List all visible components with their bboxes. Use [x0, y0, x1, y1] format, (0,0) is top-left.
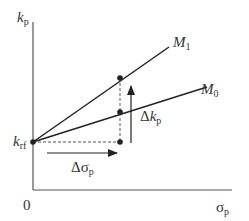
m1-label: M1	[173, 35, 191, 52]
delta-sigma-label: Δσp	[71, 160, 94, 177]
intercept-label: krf	[13, 134, 26, 151]
x-axis-label: σp	[216, 200, 229, 217]
x-axis-symbol: σ	[216, 199, 224, 215]
origin-label: 0	[23, 198, 31, 213]
intercept-subscript: rf	[20, 140, 27, 151]
diagram-canvas	[0, 0, 249, 221]
delta-k-prefix: Δ	[140, 108, 150, 124]
delta-sigma-prefix: Δ	[71, 159, 81, 175]
delta-k-label: Δkp	[140, 109, 161, 126]
line-m1	[33, 47, 169, 142]
delta-k-subscript: p	[156, 115, 161, 126]
y-axis-subscript: p	[24, 16, 29, 27]
x-axis-subscript: p	[224, 206, 229, 217]
point-base	[117, 139, 123, 145]
delta-sigma-symbol: σ	[81, 159, 89, 175]
m1-symbol: M	[173, 34, 186, 50]
m1-subscript: 1	[186, 41, 191, 52]
m0-symbol: M	[201, 81, 214, 97]
point-on-m1	[117, 75, 123, 81]
m0-label: M0	[201, 82, 219, 99]
delta-sigma-subscript: p	[89, 166, 94, 177]
intercept-symbol: k	[13, 133, 20, 149]
intercept-point	[30, 139, 36, 145]
y-axis-symbol: k	[17, 9, 24, 25]
point-on-m0	[117, 109, 123, 115]
m0-subscript: 0	[214, 88, 219, 99]
y-axis-label: kp	[17, 10, 29, 27]
